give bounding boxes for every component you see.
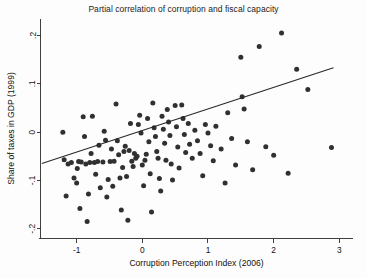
- data-point: [114, 102, 119, 107]
- data-point: [160, 114, 165, 119]
- data-point: [95, 159, 100, 164]
- data-point: [238, 55, 243, 60]
- data-point: [110, 184, 115, 189]
- data-point: [82, 134, 87, 139]
- data-point: [79, 160, 84, 165]
- data-point: [69, 160, 74, 165]
- data-point: [157, 176, 162, 181]
- data-point: [112, 159, 117, 164]
- data-point: [263, 144, 268, 149]
- data-point: [86, 192, 91, 197]
- data-point: [156, 156, 161, 161]
- data-point: [190, 156, 195, 161]
- data-point: [64, 193, 69, 198]
- data-point: [116, 152, 121, 157]
- y-tick-label: -.2: [27, 224, 37, 234]
- data-point: [177, 165, 182, 170]
- data-point: [90, 114, 95, 119]
- data-point: [167, 133, 172, 138]
- data-point: [245, 139, 250, 144]
- data-point: [187, 142, 192, 147]
- data-point: [195, 138, 200, 143]
- data-point: [98, 185, 103, 190]
- data-point: [135, 154, 140, 159]
- data-point: [174, 124, 179, 129]
- data-point: [102, 129, 107, 134]
- data-point: [271, 153, 276, 158]
- x-tick-label: 0: [140, 245, 145, 255]
- data-point: [286, 171, 291, 176]
- data-point: [77, 206, 82, 211]
- data-point: [104, 194, 109, 199]
- data-point: [85, 219, 90, 224]
- scatter-plot: -10123.2.10-.1-.2Corruption Perception I…: [0, 0, 367, 278]
- data-point: [158, 189, 163, 194]
- data-point: [175, 145, 180, 150]
- data-point: [208, 143, 213, 148]
- y-tick-label: 0: [27, 129, 37, 134]
- data-point: [62, 157, 67, 162]
- data-point: [294, 67, 299, 72]
- data-point: [305, 87, 310, 92]
- data-point: [127, 148, 132, 153]
- data-point: [100, 160, 105, 165]
- data-point: [200, 173, 205, 178]
- data-point: [87, 160, 92, 165]
- data-point: [146, 139, 151, 144]
- x-tick-label: 3: [337, 245, 342, 255]
- y-axis-title: Share of taxes in GDP (1999): [6, 72, 16, 185]
- axis-labels-group: -10123.2.10-.1-.2Corruption Perception I…: [6, 32, 342, 268]
- data-point: [121, 149, 126, 154]
- data-point: [131, 164, 136, 169]
- data-point: [183, 150, 188, 155]
- data-point: [198, 151, 203, 156]
- data-point: [137, 113, 142, 118]
- data-point: [250, 167, 255, 172]
- y-tick-label: .1: [28, 80, 38, 87]
- data-point: [203, 122, 208, 127]
- data-point: [279, 31, 284, 36]
- data-point: [205, 131, 210, 136]
- x-tick-label: -1: [73, 245, 81, 255]
- chart-figure: Partial correlation of corruption and fi…: [0, 0, 367, 278]
- data-point: [74, 180, 79, 185]
- data-point: [142, 158, 147, 163]
- data-point: [144, 152, 149, 157]
- data-points-group: [60, 31, 334, 225]
- data-point: [170, 177, 175, 182]
- data-point: [257, 44, 262, 49]
- data-point: [148, 171, 153, 176]
- data-point: [242, 106, 247, 111]
- data-point: [186, 121, 191, 126]
- x-tick-label: 2: [271, 245, 276, 255]
- data-point: [219, 147, 224, 152]
- data-point: [123, 144, 128, 149]
- data-point: [136, 122, 141, 127]
- data-point: [141, 183, 146, 188]
- data-point: [140, 163, 145, 168]
- data-point: [93, 172, 98, 177]
- data-point: [153, 134, 158, 139]
- data-point: [125, 218, 130, 223]
- regression-line-group: [42, 68, 334, 164]
- data-point: [329, 145, 334, 150]
- data-point: [165, 107, 170, 112]
- regression-line: [42, 68, 334, 164]
- data-point: [145, 116, 150, 121]
- data-point: [149, 209, 154, 214]
- x-tick-label: 1: [206, 245, 211, 255]
- data-point: [120, 165, 125, 170]
- data-point: [162, 141, 167, 146]
- data-point: [163, 158, 168, 163]
- data-point: [161, 127, 166, 132]
- data-point: [154, 149, 159, 154]
- data-point: [117, 176, 122, 181]
- data-point: [128, 121, 133, 126]
- data-point: [109, 147, 114, 152]
- data-point: [169, 162, 174, 167]
- data-point: [124, 174, 129, 179]
- y-tick-label: .2: [28, 32, 38, 39]
- data-point: [173, 103, 178, 108]
- data-point: [72, 176, 77, 181]
- data-point: [182, 132, 187, 137]
